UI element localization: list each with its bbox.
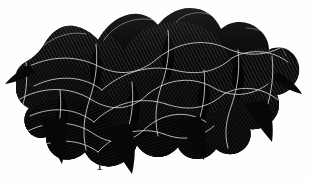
saddle-surface-illustration bbox=[0, 0, 309, 183]
figure-caption: 1 bbox=[0, 158, 309, 173]
figure-number: 1 bbox=[96, 158, 104, 173]
figure-container: 1 bbox=[0, 0, 309, 183]
